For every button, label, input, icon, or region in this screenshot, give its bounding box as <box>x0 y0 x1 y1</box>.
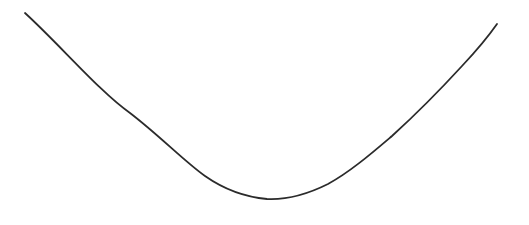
curve-plot <box>0 0 529 225</box>
plot-background <box>0 0 529 225</box>
figure-canvas <box>0 0 529 225</box>
